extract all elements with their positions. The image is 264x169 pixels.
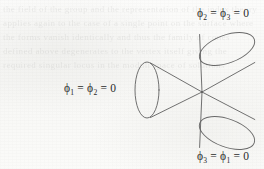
upper-right-cone-right-generator <box>202 63 255 93</box>
label-left-cone: ϕ1 = ϕ2 = 0 <box>64 82 116 94</box>
zero-value: 0 <box>243 150 249 162</box>
equals-sign-1: = <box>210 150 217 162</box>
lower-right-cone-group <box>195 92 259 156</box>
phi-subscript-1: 1 <box>70 88 74 97</box>
lower-right-cone-right-generator <box>202 92 255 120</box>
figure-container: the field of the group and the represent… <box>0 0 264 169</box>
upper-right-cone-group <box>195 26 259 92</box>
left-cone-group <box>135 62 202 118</box>
zero-value: 0 <box>243 7 249 19</box>
cone-diagram-svg <box>0 0 264 169</box>
equals-sign-2: = <box>100 82 107 94</box>
left-cone-lower-generator <box>151 92 203 118</box>
equals-sign-2: = <box>233 7 240 19</box>
equals-sign-1: = <box>210 7 217 19</box>
common-vertex-point <box>201 91 203 93</box>
left-cone-base-ellipse <box>135 62 159 118</box>
phi-subscript-1: 1 <box>226 156 230 165</box>
phi-subscript-2: 2 <box>93 88 97 97</box>
phi-subscript-3: 3 <box>226 13 230 22</box>
phi-subscript-2: 2 <box>203 13 207 22</box>
label-lower-right-cone: ϕ3 = ϕ1 = 0 <box>197 150 249 162</box>
equals-sign-2: = <box>233 150 240 162</box>
label-upper-right-cone: ϕ2 = ϕ3 = 0 <box>197 7 249 19</box>
zero-value: 0 <box>110 82 116 94</box>
equals-sign-1: = <box>77 82 84 94</box>
phi-subscript-3: 3 <box>203 156 207 165</box>
upper-right-cone-left-generator <box>200 35 202 93</box>
